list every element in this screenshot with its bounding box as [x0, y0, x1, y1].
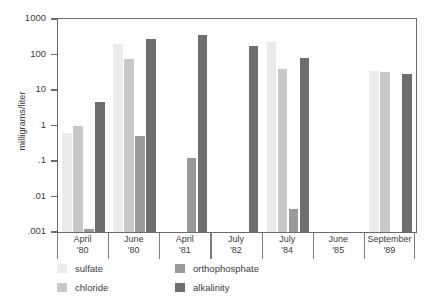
- legend-swatch-orthophosphate: [175, 264, 185, 273]
- x-axis-label: April'80: [57, 234, 108, 256]
- bar-chloride: [278, 69, 288, 232]
- bar-alkalinity: [300, 58, 310, 232]
- x-axis-label: April'81: [159, 234, 210, 256]
- bar-alkalinity: [402, 74, 412, 232]
- chart-legend: sulfateorthophosphatechloridealkalinity: [57, 262, 357, 298]
- x-axis-label-month: July: [279, 234, 295, 244]
- x-axis-label-year: '85: [313, 245, 364, 256]
- bar-alkalinity: [146, 39, 156, 232]
- x-axis-label-year: '89: [364, 245, 415, 256]
- y-axis-tick-label: 100: [0, 48, 46, 59]
- x-axis-label: September'89: [364, 234, 415, 256]
- bar-group: [365, 19, 416, 232]
- y-axis-tick-label: .01: [0, 190, 46, 201]
- bar-orthophosphate: [135, 136, 145, 232]
- bar-group: [314, 19, 365, 232]
- bar-orthophosphate: [289, 209, 299, 232]
- y-axis-tick-mark: [51, 196, 58, 197]
- bar-alkalinity: [249, 46, 259, 232]
- x-axis-label-month: June: [329, 234, 349, 244]
- x-axis-label-month: July: [228, 234, 244, 244]
- y-axis-tick-mark: [51, 125, 58, 126]
- legend-label-chloride: chloride: [75, 281, 108, 294]
- x-axis-label-year: '84: [262, 245, 313, 256]
- bar-group: [160, 19, 211, 232]
- bar-alkalinity: [95, 102, 105, 232]
- x-axis-label: July'82: [210, 234, 261, 256]
- x-axis-label-year: '80: [108, 245, 159, 256]
- x-axis-label-year: '82: [210, 245, 261, 256]
- x-axis-label-month: April: [74, 234, 92, 244]
- bar-chloride: [380, 72, 390, 232]
- x-axis-label-year: '80: [57, 245, 108, 256]
- bar-orthophosphate: [187, 158, 197, 232]
- x-axis-label-year: '81: [159, 245, 210, 256]
- bar-group: [109, 19, 160, 232]
- y-axis-tick-mark: [51, 160, 58, 161]
- legend-label-sulfate: sulfate: [75, 262, 103, 275]
- bar-sulfate: [369, 71, 379, 232]
- legend-swatch-sulfate: [57, 264, 67, 273]
- legend-label-orthophosphate: orthophosphate: [193, 262, 259, 275]
- y-axis-tick-label: .001: [0, 225, 46, 236]
- bar-chloride: [73, 126, 83, 233]
- x-axis-label-month: April: [176, 234, 194, 244]
- x-axis-label-month: June: [124, 234, 144, 244]
- bar-sulfate: [62, 133, 72, 232]
- y-axis-tick-label: 10: [0, 83, 46, 94]
- x-axis: April'80June'80April'81July'82July'84Jun…: [57, 233, 417, 259]
- y-axis-tick-label: 1000: [0, 12, 46, 23]
- bar-orthophosphate: [84, 229, 94, 232]
- y-axis-tick-mark: [51, 89, 58, 90]
- bar-sulfate: [267, 42, 277, 232]
- x-axis-label: June'80: [108, 234, 159, 256]
- bar-alkalinity: [198, 35, 208, 232]
- bar-chloride: [124, 59, 134, 232]
- x-axis-label: June'85: [313, 234, 364, 256]
- bar-group: [211, 19, 262, 232]
- y-axis-tick-label: .1: [0, 154, 46, 165]
- y-axis-tick-mark: [51, 54, 58, 55]
- legend-swatch-chloride: [57, 283, 67, 292]
- bar-sulfate: [113, 44, 123, 232]
- legend-label-alkalinity: alkalinity: [193, 281, 229, 294]
- bar-group: [263, 19, 314, 232]
- y-axis-tick-label: 1: [0, 119, 46, 130]
- y-axis-tick-mark: [51, 18, 58, 19]
- bar-group: [58, 19, 109, 232]
- x-axis-label: July'84: [262, 234, 313, 256]
- x-axis-label-month: September: [367, 234, 411, 244]
- chart-container: milligrams/liter 1000100101.1.01.001 Apr…: [0, 0, 429, 303]
- bars-layer: [58, 19, 416, 232]
- legend-swatch-alkalinity: [175, 283, 185, 292]
